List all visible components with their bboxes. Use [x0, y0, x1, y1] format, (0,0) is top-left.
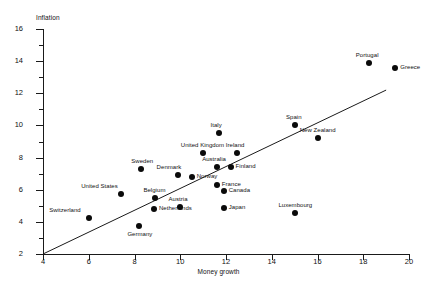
data-point[interactable] [152, 195, 158, 201]
data-point[interactable] [221, 205, 227, 211]
data-point[interactable] [214, 182, 220, 188]
data-point[interactable] [151, 206, 157, 212]
data-point-label: Portugal [356, 52, 379, 59]
data-point[interactable] [366, 60, 372, 66]
scatter-chart: Inflation 246810121416 468101214161820 S… [0, 0, 437, 284]
data-point-label: Netherlands [159, 205, 192, 212]
data-point[interactable] [216, 130, 222, 136]
data-point-label: New Zealand [300, 127, 336, 134]
data-point[interactable] [177, 204, 183, 210]
data-points-layer: SwitzerlandUnited StatesSwedenGermanyBel… [0, 0, 437, 284]
data-point[interactable] [228, 164, 234, 170]
data-point[interactable] [214, 164, 220, 170]
data-point-label: Italy [211, 122, 222, 129]
data-point[interactable] [138, 166, 144, 172]
data-point[interactable] [86, 215, 92, 221]
data-point[interactable] [221, 188, 227, 194]
data-point-label: Ireland [226, 142, 245, 149]
data-point-label: United States [81, 183, 118, 190]
data-point-label: Canada [229, 187, 250, 194]
x-axis-title: Money growth [0, 268, 437, 275]
data-point[interactable] [136, 223, 142, 229]
data-point-label: Germany [127, 231, 152, 238]
data-point-label: United Kingdom [181, 142, 224, 149]
data-point[interactable] [200, 150, 206, 156]
data-point[interactable] [189, 174, 195, 180]
data-point[interactable] [315, 135, 321, 141]
data-point[interactable] [392, 65, 398, 71]
data-point-label: Greece [400, 64, 420, 71]
data-point-label: Belgium [143, 187, 165, 194]
data-point[interactable] [234, 150, 240, 156]
data-point-label: Austria [169, 196, 188, 203]
data-point[interactable] [118, 191, 124, 197]
data-point-label: Denmark [157, 164, 182, 171]
data-point-label: Sweden [131, 158, 153, 165]
data-point[interactable] [292, 210, 298, 216]
data-point-label: Finland [236, 163, 256, 170]
data-point-label: Australia [202, 156, 226, 163]
data-point-label: Norway [197, 173, 218, 180]
data-point-label: Switzerland [49, 207, 81, 214]
data-point[interactable] [175, 172, 181, 178]
data-point-label: Spain [286, 114, 302, 121]
data-point-label: Japan [229, 204, 246, 211]
data-point[interactable] [292, 122, 298, 128]
data-point-label: Luxembourg [278, 202, 312, 209]
